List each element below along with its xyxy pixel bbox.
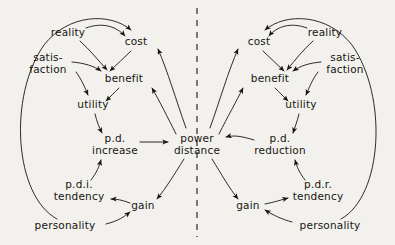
node-label-line1: p.d.i. — [54, 179, 105, 191]
edge-l-center-to-cost — [158, 49, 186, 128]
node-right-personality: personality — [300, 220, 361, 232]
node-label: benefit — [105, 73, 143, 85]
node-right-benefit: benefit — [251, 73, 289, 85]
node-right-pdr-tendency: p.d.r. tendency — [293, 179, 344, 202]
node-right-pd-reduction: p.d. reduction — [254, 133, 306, 156]
node-label: utility — [77, 99, 108, 111]
node-left-satisfaction: satis- faction — [29, 52, 66, 75]
node-left-gain: gain — [131, 200, 154, 212]
edge-r-reality-to-cost — [269, 25, 307, 36]
node-label-line2: faction — [29, 63, 66, 75]
node-label: cost — [248, 36, 271, 48]
node-label: gain — [131, 200, 154, 212]
edge-l-utility-to-pd-increase — [95, 114, 102, 133]
node-right-utility: utility — [285, 99, 316, 111]
edge-l-satisfaction-to-utility — [76, 72, 88, 95]
node-label: utility — [285, 99, 316, 111]
node-label-line1: satis- — [29, 52, 66, 64]
node-right-gain: gain — [236, 200, 259, 212]
causal-loop-diagram: reality cost satis- faction benefit util… — [0, 0, 395, 245]
edge-l-center-to-gain — [157, 159, 184, 199]
node-label-line2: distance — [174, 144, 220, 156]
edge-l-gain-to-pdi-tendency — [111, 199, 130, 203]
edge-l-reality-to-cost — [86, 25, 125, 36]
node-left-benefit: benefit — [105, 73, 143, 85]
node-label-line1: p.d. — [254, 133, 306, 145]
edge-r-gain-to-pdr-tendency — [265, 198, 288, 204]
node-left-personality: personality — [35, 220, 96, 232]
node-left-utility: utility — [77, 99, 108, 111]
node-right-reality: reality — [308, 27, 343, 39]
node-label-line1: p.d.r. — [293, 179, 344, 191]
node-left-pd-increase: p.d. increase — [92, 133, 138, 156]
node-label-line2: tendency — [54, 190, 105, 202]
edge-r-center-to-cost — [210, 49, 238, 128]
node-label-line1: p.d. — [92, 133, 138, 145]
node-right-satisfaction: satis- faction — [326, 52, 363, 75]
node-power-distance: power distance — [174, 133, 220, 156]
node-label: benefit — [251, 73, 289, 85]
edge-l-personality-to-gain — [106, 212, 130, 224]
edge-l-reality-to-benefit — [80, 41, 107, 70]
edge-r-satisfaction-to-benefit — [293, 62, 321, 71]
node-label: personality — [300, 220, 361, 232]
node-left-reality: reality — [51, 27, 86, 39]
edge-r-pd-reduction-to-center — [226, 136, 254, 140]
node-label: reality — [308, 27, 343, 39]
node-left-pdi-tendency: p.d.i. tendency — [54, 179, 105, 202]
edge-r-satisfaction-to-utility — [306, 72, 318, 95]
node-label-line1: power — [174, 133, 220, 145]
node-label-line1: satis- — [326, 52, 363, 64]
node-label: personality — [35, 220, 96, 232]
edge-r-reality-to-benefit — [287, 41, 313, 70]
node-label-line2: increase — [92, 144, 138, 156]
node-label: reality — [51, 27, 86, 39]
node-label-line2: tendency — [293, 190, 344, 202]
node-left-cost: cost — [125, 36, 148, 48]
edge-r-cost-to-benefit — [263, 51, 284, 71]
node-label: cost — [125, 36, 148, 48]
edge-r-center-to-benefit — [219, 88, 243, 134]
edge-l-center-to-benefit — [152, 88, 176, 134]
edge-r-utility-to-pd-reduction — [293, 114, 299, 133]
edge-l-satisfaction-to-benefit — [72, 62, 101, 71]
node-label: gain — [236, 200, 259, 212]
node-label-line2: faction — [326, 63, 363, 75]
edge-r-center-to-gain — [212, 159, 238, 199]
node-right-cost: cost — [248, 36, 271, 48]
edge-l-cost-to-benefit — [110, 51, 131, 71]
edge-r-personality-to-gain — [265, 210, 292, 222]
node-label-line2: reduction — [254, 144, 306, 156]
